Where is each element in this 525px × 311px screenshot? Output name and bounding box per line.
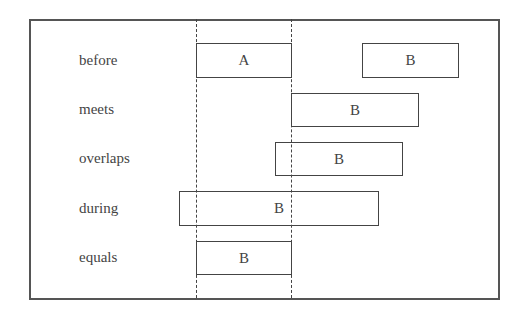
- interval-a-box: A: [196, 43, 292, 78]
- relation-label-meets: meets: [79, 100, 114, 118]
- relation-label-overlaps: overlaps: [79, 149, 130, 167]
- interval-relations-diagram: before meets overlaps during equals A B …: [0, 0, 525, 311]
- relation-label-before: before: [79, 51, 117, 69]
- interval-b-box-equals: B: [196, 241, 292, 275]
- interval-b-box-during: B: [179, 191, 379, 226]
- relation-label-during: during: [79, 199, 118, 217]
- interval-b-box-before: B: [362, 43, 459, 78]
- relation-label-equals: equals: [79, 248, 117, 266]
- interval-b-box-overlaps: B: [275, 142, 403, 176]
- interval-b-box-meets: B: [291, 93, 419, 127]
